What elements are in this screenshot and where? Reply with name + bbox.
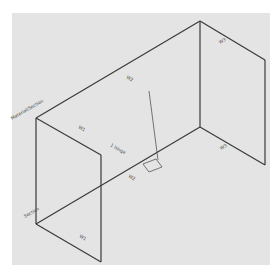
label-left-wall-bottom: W1 xyxy=(79,234,88,242)
back-wall-bottom-edge xyxy=(36,127,200,224)
right-wall-bottom-edge xyxy=(200,127,265,165)
right-wall-top-edge xyxy=(200,21,265,60)
left-wall-top-edge xyxy=(36,118,101,155)
label-front-wall: W1 xyxy=(78,125,87,133)
back-wall-top-edge xyxy=(36,21,200,118)
label-right-wall-top: W3 xyxy=(218,37,227,45)
isometric-wall-diagram: Material/Section Section W2 W1 W1 W3 W3 … xyxy=(0,0,279,273)
left-wall-bottom-edge xyxy=(36,224,101,262)
label-top-left: Material/Section xyxy=(10,98,44,121)
label-back-wall: W2 xyxy=(126,75,135,83)
label-bottom-left: Section xyxy=(23,206,40,219)
label-floor-center: W2 xyxy=(128,174,137,182)
marker-shape xyxy=(143,159,162,172)
leader-line xyxy=(149,91,158,160)
label-right-floor: W3 xyxy=(219,143,228,151)
label-center-note: 1 hinge xyxy=(110,143,127,156)
